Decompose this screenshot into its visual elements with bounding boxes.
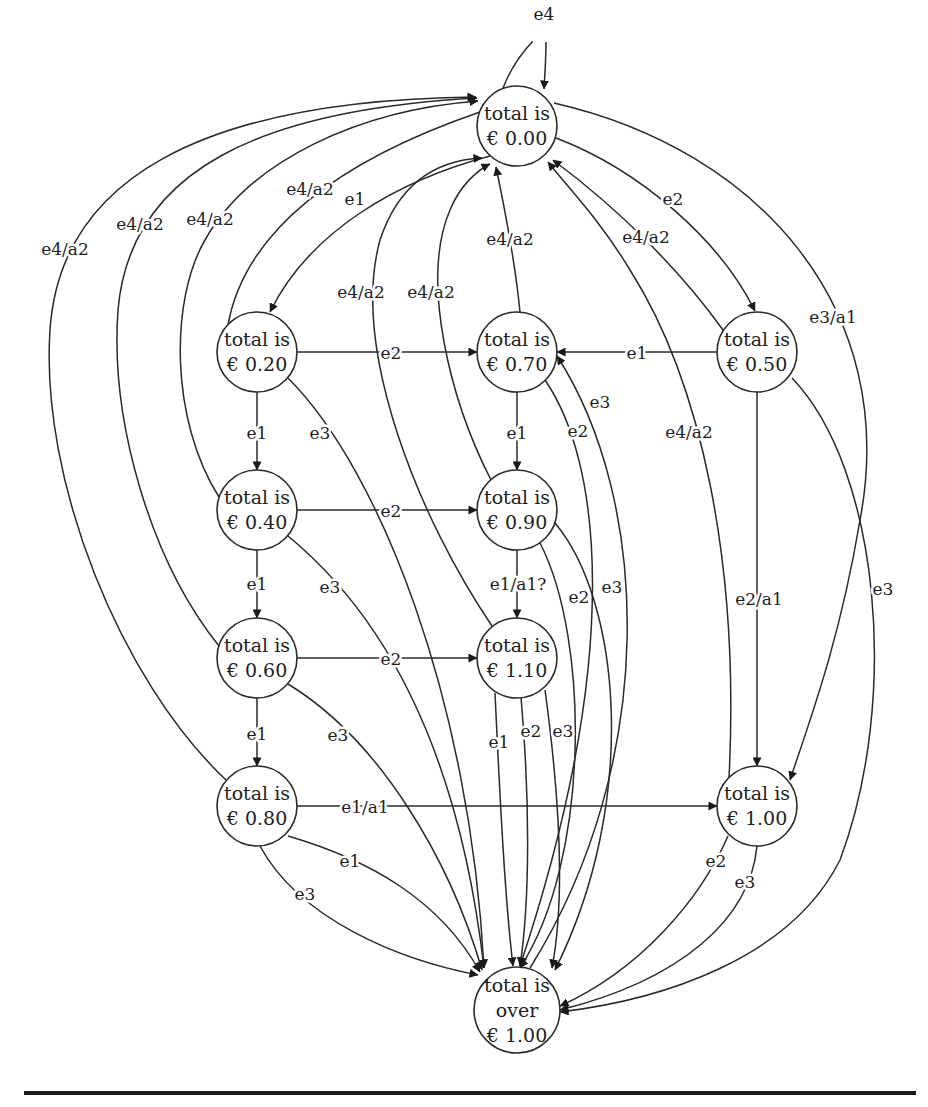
label-000-020-e1: e1 [345, 189, 366, 209]
label-050-100-e2a1: e2/a1 [735, 589, 783, 609]
edge-080-over-e3 [260, 846, 478, 975]
state-total-0-20: total is € 0.20 [217, 312, 297, 392]
state-total-0-60: total is € 0.60 [217, 618, 297, 698]
label-050-000-e4a2: e4/a2 [622, 227, 670, 247]
edges [49, 42, 874, 1012]
state-total-1-10: total is € 1.10 [477, 618, 557, 698]
label-000-050-e2: e2 [663, 189, 684, 209]
label-040-over-e3: e3 [320, 577, 341, 597]
label-070-over-e2: e2 [568, 421, 589, 441]
label-060-000-e4a2: e4/a2 [116, 214, 164, 234]
label-100-000-e4a2: e4/a2 [665, 422, 713, 442]
edge-060-over-e3 [288, 684, 482, 970]
label-020-over-e3: e3 [310, 423, 331, 443]
svg-text:total is: total is [724, 328, 790, 350]
svg-text:total is: total is [224, 634, 290, 656]
state-total-0-80: total is € 0.80 [217, 766, 297, 846]
svg-text:total is: total is [224, 328, 290, 350]
svg-text:total is: total is [484, 328, 550, 350]
label-110-over-e3: e3 [553, 721, 574, 741]
svg-text:€ 0.90: € 0.90 [486, 511, 547, 533]
label-000-100-e3a1: e3/a1 [809, 307, 857, 327]
svg-text:total is: total is [484, 102, 550, 124]
label-040-060-e1: e1 [247, 574, 268, 594]
edge-self-e4-return [544, 42, 546, 89]
svg-text:€ 0.50: € 0.50 [726, 353, 787, 375]
label-060-over-e3: e3 [328, 725, 349, 745]
label-110-000-e4a2: e4/a2 [337, 282, 385, 302]
edge-040-over-e3 [288, 536, 484, 968]
label-100-over-e2: e2 [706, 851, 727, 871]
state-total-0-50: total is € 0.50 [717, 312, 797, 392]
label-080-over-e3: e3 [295, 884, 316, 904]
label-090-000-e4a2: e4/a2 [407, 282, 455, 302]
svg-text:total is: total is [224, 486, 290, 508]
label-090-110-e1a1: e1/a1? [490, 574, 547, 594]
label-080-over-e1: e1 [340, 851, 361, 871]
svg-text:€ 0.80: € 0.80 [226, 807, 287, 829]
state-total-0-00: total is € 0.00 [477, 86, 557, 166]
label-040-090-e2: e2 [381, 501, 402, 521]
svg-text:total is: total is [724, 782, 790, 804]
label-020-070-e2: e2 [381, 343, 402, 363]
svg-text:€ 0.60: € 0.60 [226, 659, 287, 681]
svg-text:€ 0.20: € 0.20 [226, 353, 287, 375]
svg-text:€ 0.00: € 0.00 [486, 127, 547, 149]
label-110-over-e2: e2 [521, 721, 542, 741]
state-total-0-40: total is € 0.40 [217, 470, 297, 550]
label-060-110-e2: e2 [381, 649, 402, 669]
label-110-over-e1: e1 [489, 732, 510, 752]
label-070-000-e4a2: e4/a2 [486, 229, 534, 249]
svg-text:€ 1.00: € 1.00 [486, 1024, 547, 1046]
label-020-040-e1: e1 [247, 423, 268, 443]
label-020-000-e4a2: e4/a2 [286, 179, 334, 199]
label-100-over-e3: e3 [735, 872, 756, 892]
state-total-0-70: total is € 0.70 [477, 312, 557, 392]
svg-text:total is: total is [484, 486, 550, 508]
edge-090-000-e4a2 [438, 164, 491, 480]
edge-090-over-e2 [520, 543, 575, 968]
label-over-070-e3: e3 [590, 392, 611, 412]
label-self-e4: e4 [534, 4, 555, 24]
state-total-1-00: total is € 1.00 [717, 766, 797, 846]
label-040-000-e4a2: e4/a2 [186, 209, 234, 229]
state-total-0-90: total is € 0.90 [477, 470, 557, 550]
svg-text:total is: total is [484, 634, 550, 656]
svg-text:€ 0.40: € 0.40 [226, 511, 287, 533]
label-060-080-e1: e1 [247, 724, 268, 744]
edge-110-000-e4a2 [373, 158, 492, 626]
edge-000-100-e3a1 [554, 103, 867, 780]
state-diagram: e4 e1 e2 e3/a1 e4/a2 e4/a2 e4/a2 e4/a2 e… [0, 0, 928, 1107]
edge-100-000-e4a2 [548, 162, 731, 778]
label-050-070-e1: e1 [627, 343, 648, 363]
state-total-over-1-00: total is over € 1.00 [474, 967, 560, 1053]
svg-text:over: over [496, 999, 539, 1021]
bottom-rule-divider [24, 1091, 916, 1095]
svg-text:total is: total is [484, 974, 550, 996]
edge-self-e4 [503, 42, 533, 88]
svg-text:€ 1.10: € 1.10 [486, 659, 547, 681]
label-080-000-e4a2: e4/a2 [41, 239, 89, 259]
edge-080-over-e1 [288, 836, 480, 972]
svg-text:€ 0.70: € 0.70 [486, 353, 547, 375]
label-090-over-e2: e2 [569, 587, 590, 607]
label-080-100-e1a1: e1/a1 [341, 797, 389, 817]
label-070-090-e1: e1 [507, 423, 528, 443]
edge-100-over-e3 [560, 846, 757, 1010]
svg-text:€ 1.00: € 1.00 [726, 807, 787, 829]
label-050-over-e3: e3 [873, 579, 894, 599]
svg-text:total is: total is [224, 782, 290, 804]
edge-000-050-e2 [556, 138, 755, 311]
label-090-over-e3: e3 [602, 577, 623, 597]
edge-020-over-e3 [288, 378, 484, 968]
